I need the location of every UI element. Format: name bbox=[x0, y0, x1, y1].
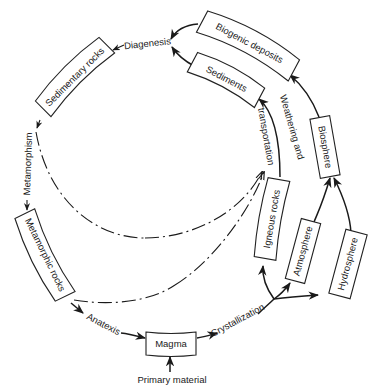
arrow-atmosphere-to-biosphere bbox=[314, 178, 330, 222]
label-primary-material: Primary material bbox=[137, 374, 206, 385]
arrow-sediments-to-diagenesis bbox=[172, 47, 194, 66]
node-magma: Magma bbox=[146, 332, 196, 357]
node-hydrosphere: Hydrosphere bbox=[329, 229, 367, 298]
rock-cycle-diagram: Biogenic deposits Sediments Sedimentary … bbox=[0, 0, 369, 391]
node-metamorphic-rocks: Metamorphic rocks bbox=[12, 209, 75, 303]
arrow-metamorphic-to-anatexis bbox=[71, 303, 83, 313]
label-weathering: Weathering and bbox=[278, 93, 307, 160]
node-igneous-rocks: Igneous rocks bbox=[252, 177, 290, 260]
dashed-metamorphic-inner bbox=[74, 285, 175, 303]
node-sedimentary-rocks: Sedimentary rocks bbox=[33, 35, 115, 117]
label-transportation: transportation bbox=[256, 107, 277, 166]
label-metamorphism: Metamorphism bbox=[21, 132, 34, 195]
label-crystallization: Crystallization bbox=[209, 301, 266, 338]
arrow-anatexis-to-magma bbox=[121, 333, 145, 338]
arrow-hydrosphere-to-biosphere bbox=[334, 178, 351, 233]
label-diagenesis: Diagenesis bbox=[123, 35, 171, 51]
arrow-crystallization-to-atmosphere bbox=[274, 283, 290, 299]
arrow-sedimentary-to-metamorphism bbox=[37, 120, 40, 128]
label-anatexis: Anatexis bbox=[85, 311, 123, 338]
dashed-sedimentary-inner bbox=[36, 132, 145, 238]
label-magma: Magma bbox=[155, 338, 187, 349]
dashed-arrow-to-igneous-upper bbox=[145, 172, 262, 238]
arrow-crystallization-to-hydrosphere bbox=[274, 295, 318, 299]
label-sedimentary-rocks: Sedimentary rocks bbox=[43, 45, 107, 109]
node-atmosphere: Atmosphere bbox=[285, 218, 320, 283]
arrow-crystallization-to-igneous bbox=[263, 266, 274, 299]
arrow-biogenic-to-diagenesis bbox=[171, 24, 198, 39]
arrow-diagenesis-to-sedimentary bbox=[113, 45, 124, 50]
node-biosphere: Biosphere bbox=[310, 116, 340, 179]
